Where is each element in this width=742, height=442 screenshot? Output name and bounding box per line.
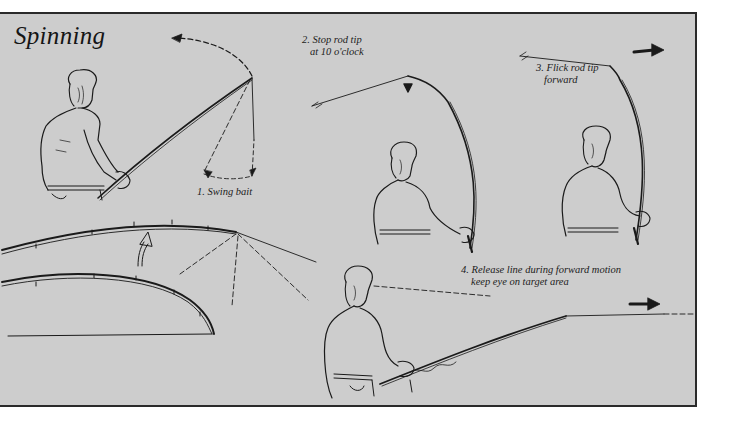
- step-2-line-2: at 10 o'clock: [302, 46, 364, 58]
- step-3-caption: 3. Flick rod tip forward: [536, 62, 599, 86]
- step-1-caption: 1. Swing bait: [197, 186, 252, 198]
- right-arrow-icon: [634, 50, 654, 52]
- step-3-line-1: 3. Flick rod tip: [536, 62, 599, 74]
- spinning-cast-illustration: [0, 0, 742, 442]
- step-2-line-1: 2. Stop rod tip: [302, 34, 364, 46]
- curved-up-arrow-icon: [138, 242, 148, 266]
- step-3-line-2: forward: [536, 74, 599, 86]
- step-4-line-2: keep eye on target area: [461, 276, 621, 288]
- angler-figure-2: [312, 76, 476, 252]
- page-title: Spinning: [14, 22, 105, 50]
- up-arrow-icon: [404, 84, 412, 92]
- step-2-caption: 2. Stop rod tip at 10 o'clock: [302, 34, 364, 58]
- step-4-caption: 4. Release line during forward motion ke…: [461, 264, 621, 288]
- rod-flex-diagram: [2, 220, 316, 336]
- step-4-line-1: 4. Release line during forward motion: [461, 264, 621, 276]
- step-1-line-1: 1. Swing bait: [197, 186, 252, 198]
- dashed-curved-arrow-icon: [178, 38, 252, 76]
- angler-figure-1: [41, 34, 256, 200]
